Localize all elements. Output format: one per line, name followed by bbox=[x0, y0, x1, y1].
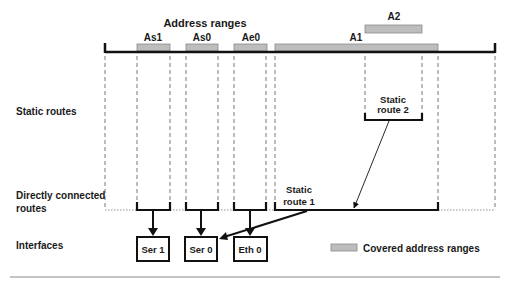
interface-boxes: Ser 1 Ser 0 Eth 0 bbox=[137, 237, 267, 261]
direct-bracket-as0 bbox=[186, 202, 218, 210]
direct-bracket-ae0 bbox=[234, 202, 266, 210]
interface-arrows bbox=[153, 211, 250, 229]
range-label-as0: As0 bbox=[193, 32, 212, 43]
row-label-static-routes: Static routes bbox=[16, 106, 77, 117]
routing-diagram: Address ranges As1 As0 Ae0 A1 A2 bbox=[0, 0, 512, 281]
interface-label-eth0: Eth 0 bbox=[238, 244, 261, 255]
static-route-1-to-ser0 bbox=[224, 211, 307, 237]
range-label-a2: A2 bbox=[388, 11, 401, 22]
range-bar-a2 bbox=[365, 25, 422, 33]
range-bar-as0 bbox=[186, 44, 218, 51]
static-route-1-label-2: route 1 bbox=[283, 196, 315, 207]
interface-label-ser0: Ser 0 bbox=[189, 244, 212, 255]
interface-label-ser1: Ser 1 bbox=[141, 244, 165, 255]
legend-swatch bbox=[331, 244, 357, 251]
static-route-2-label-2: route 2 bbox=[377, 104, 409, 115]
static-route-1-arrowhead bbox=[219, 232, 228, 240]
row-label-direct-1: Directly connected bbox=[16, 190, 105, 201]
row-label-interfaces: Interfaces bbox=[16, 240, 64, 251]
row-label-direct-2: routes bbox=[16, 203, 47, 214]
direct-bracket-as1 bbox=[137, 202, 170, 210]
range-label-as1: As1 bbox=[144, 32, 163, 43]
range-bar-as1 bbox=[137, 44, 170, 51]
legend-label: Covered address ranges bbox=[363, 243, 480, 254]
range-label-ae0: Ae0 bbox=[242, 32, 261, 43]
address-ranges-title: Address ranges bbox=[163, 17, 246, 29]
range-bar-ae0 bbox=[234, 44, 267, 51]
range-bar-a1 bbox=[275, 44, 438, 51]
recursive-lookup-arrow bbox=[354, 121, 389, 208]
static-route-1-label-1: Static bbox=[286, 184, 312, 195]
range-label-a1: A1 bbox=[350, 32, 363, 43]
